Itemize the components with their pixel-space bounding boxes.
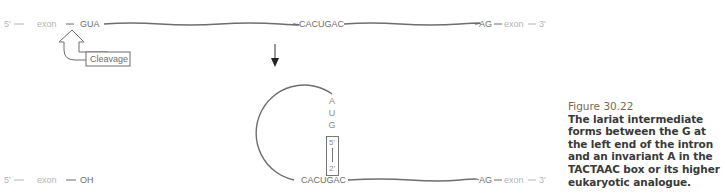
- top-exon-right-label: exon: [504, 19, 524, 29]
- bottom-exon-label: exon: [37, 175, 57, 185]
- lariat-3prime-label: 3': [539, 175, 546, 185]
- lariat-letter-u: U: [327, 108, 337, 119]
- cleavage-label: Cleavage: [90, 54, 128, 64]
- bond-2prime-label: 2': [327, 163, 337, 174]
- lariat-loop: [256, 85, 332, 180]
- intron-line-left: [104, 23, 299, 25]
- intron-line-right: [344, 23, 480, 25]
- donor-site-label: GUA: [80, 19, 100, 29]
- lariat-letter-a: A: [327, 96, 337, 107]
- branch-site-label: CACUGAC: [299, 19, 344, 29]
- bottom-5prime-label: 5': [4, 175, 11, 185]
- hydroxyl-end-label: OH: [80, 175, 94, 185]
- down-arrow-icon: [271, 58, 279, 67]
- phosphodiester-bond-box: 5' 2': [326, 136, 339, 176]
- lariat-intron-line: [348, 179, 478, 181]
- figure-caption-text: The lariat intermediate forms between th…: [568, 113, 725, 189]
- bond-line: [332, 148, 333, 162]
- figure-number: Figure 30.22: [568, 100, 725, 113]
- lariat-letter-g: G: [327, 120, 337, 131]
- acceptor-site-label: AG: [479, 19, 492, 29]
- figure-caption: Figure 30.22 The lariat intermediate for…: [568, 100, 725, 188]
- top-5prime-label: 5': [4, 19, 11, 29]
- lariat-acceptor-label: AG: [479, 175, 492, 185]
- lariat-exon-right-label: exon: [504, 175, 524, 185]
- bond-5prime-label: 5': [327, 137, 337, 148]
- lariat-branch-label: CACUGAC: [301, 175, 346, 185]
- top-3prime-label: 3': [539, 19, 546, 29]
- top-exon-left-label: exon: [37, 19, 57, 29]
